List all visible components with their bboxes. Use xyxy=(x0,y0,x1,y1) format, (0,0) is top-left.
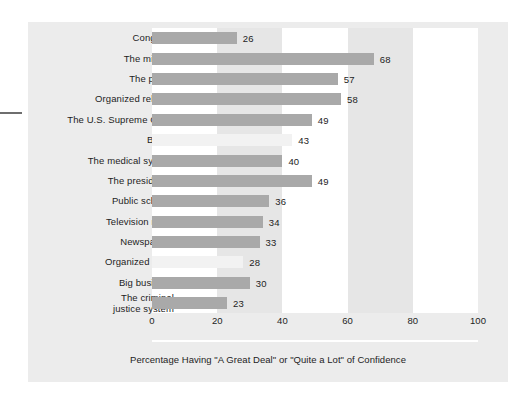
bar-row: The criminal justice system23 xyxy=(28,293,508,313)
bar xyxy=(152,195,269,207)
bar-row: The military68 xyxy=(28,48,508,68)
bar-value-label: 49 xyxy=(318,175,329,186)
bar xyxy=(152,73,338,85)
bar-row: Organized labor28 xyxy=(28,252,508,272)
bar-row: Public schools36 xyxy=(28,191,508,211)
x-axis-ticks: 020406080100 xyxy=(28,315,508,331)
x-tick-label: 0 xyxy=(149,315,154,326)
bar-value-label: 28 xyxy=(249,257,260,268)
bar xyxy=(152,134,292,146)
bar xyxy=(152,93,341,105)
bar-value-label: 40 xyxy=(288,155,299,166)
bar-value-label: 57 xyxy=(344,73,355,84)
bar-value-label: 68 xyxy=(380,53,391,64)
bar-value-label: 58 xyxy=(347,94,358,105)
page-margin-glyph xyxy=(0,46,9,62)
bar xyxy=(152,53,374,65)
x-tick-label: 20 xyxy=(212,315,223,326)
bar-row: Congress26 xyxy=(28,28,508,48)
x-tick-label: 60 xyxy=(342,315,353,326)
bar-row: The U.S. Supreme Court49 xyxy=(28,110,508,130)
page-margin-rule xyxy=(0,112,22,114)
bar-value-label: 36 xyxy=(275,196,286,207)
bar xyxy=(152,114,312,126)
x-axis-rule xyxy=(152,340,478,342)
bar-row: Big business30 xyxy=(28,273,508,293)
x-tick-label: 100 xyxy=(470,315,486,326)
bar xyxy=(152,32,237,44)
bar-row: The police57 xyxy=(28,69,508,89)
bar-value-label: 49 xyxy=(318,114,329,125)
bar-row: Newspapers33 xyxy=(28,232,508,252)
bar-row: The presidency49 xyxy=(28,171,508,191)
bar xyxy=(152,216,263,228)
bar-row: The medical system40 xyxy=(28,150,508,170)
x-tick-label: 80 xyxy=(408,315,419,326)
bar-value-label: 30 xyxy=(256,277,267,288)
bar-value-label: 26 xyxy=(243,33,254,44)
bar-value-label: 34 xyxy=(269,216,280,227)
chart-caption: Percentage Having "A Great Deal" or "Qui… xyxy=(28,354,508,365)
bar xyxy=(152,236,260,248)
bar-value-label: 23 xyxy=(233,298,244,309)
bar xyxy=(152,277,250,289)
figure-card: Congress26The military68The police57Orga… xyxy=(28,22,508,382)
bar xyxy=(152,155,282,167)
bar-row: Organized religion58 xyxy=(28,89,508,109)
bar-value-label: 43 xyxy=(298,135,309,146)
bar-row: Television news34 xyxy=(28,212,508,232)
bar xyxy=(152,175,312,187)
bar-rows: Congress26The military68The police57Orga… xyxy=(28,28,508,313)
bar xyxy=(152,256,243,268)
bar-chart-plot: Congress26The military68The police57Orga… xyxy=(28,22,508,382)
x-tick-label: 40 xyxy=(277,315,288,326)
bar xyxy=(152,297,227,309)
bar-value-label: 33 xyxy=(266,237,277,248)
bar-row: Banks43 xyxy=(28,130,508,150)
